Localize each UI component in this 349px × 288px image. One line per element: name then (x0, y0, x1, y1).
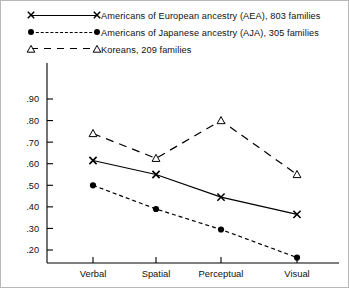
series-line (93, 121, 297, 175)
filled-circle-marker (93, 28, 102, 37)
line-chart-svg: .20.30.40.50.60.70.80.90 VerbalSpatialPe… (1, 61, 349, 288)
y-tick-label: .90 (26, 94, 39, 104)
legend-label-aea: Americans of European ancestry (AEA), 80… (101, 11, 320, 21)
x-marker (27, 11, 36, 20)
legend-item-aja: Americans of Japanese ancestry (AJA), 30… (27, 24, 345, 41)
legend-label-koreans: Koreans, 209 families (101, 45, 191, 55)
series-filled-circle-marker (90, 182, 300, 260)
filled-circle-marker (218, 226, 224, 232)
legend-line-dashed-long (31, 48, 97, 49)
legend-sample-aea (27, 7, 101, 24)
y-tick-label: .30 (26, 224, 39, 234)
series-line (93, 185, 297, 257)
filled-circle-marker (294, 254, 300, 260)
x-axis: VerbalSpatialPerceptualVisual (47, 257, 339, 279)
legend-label-aja: Americans of Japanese ancestry (AJA), 30… (101, 28, 319, 38)
plot-area: .20.30.40.50.60.70.80.90 VerbalSpatialPe… (1, 61, 349, 288)
open-triangle-marker (92, 44, 102, 54)
series-line (93, 160, 297, 214)
y-tick-label: .50 (26, 181, 39, 191)
series-x-marker (89, 157, 300, 218)
open-triangle-marker (152, 154, 160, 161)
data-series-group (89, 117, 301, 261)
legend-item-koreans: Koreans, 209 families (27, 41, 345, 58)
y-tick-label: .60 (26, 159, 39, 169)
x-tick-label: Spatial (142, 268, 171, 279)
legend-line-dashed-short (31, 32, 97, 33)
filled-circle-marker (153, 206, 159, 212)
legend-sample-koreans (27, 41, 101, 58)
x-tick-label: Perceptual (199, 268, 244, 279)
legend-sample-aja (27, 24, 101, 41)
filled-circle-marker (27, 28, 36, 37)
open-triangle-marker (26, 44, 36, 54)
y-tick-label: .20 (26, 245, 39, 255)
legend-item-aea: Americans of European ancestry (AEA), 80… (27, 7, 345, 24)
legend-line-solid (31, 15, 97, 16)
y-tick-label: .80 (26, 116, 39, 126)
open-triangle-marker (217, 117, 225, 124)
open-triangle-marker (293, 171, 301, 178)
x-tick-label: Verbal (80, 268, 107, 279)
filled-circle-marker (90, 182, 96, 188)
y-tick-label: .70 (26, 138, 39, 148)
x-marker (93, 11, 102, 20)
x-tick-label: Visual (284, 268, 309, 279)
y-axis: .20.30.40.50.60.70.80.90 (26, 63, 53, 263)
series-open-triangle-marker (89, 117, 301, 178)
y-tick-label: .40 (26, 202, 39, 212)
figure-container: Americans of European ancestry (AEA), 80… (0, 0, 349, 288)
chart-legend: Americans of European ancestry (AEA), 80… (27, 7, 345, 58)
open-triangle-marker (89, 130, 97, 137)
